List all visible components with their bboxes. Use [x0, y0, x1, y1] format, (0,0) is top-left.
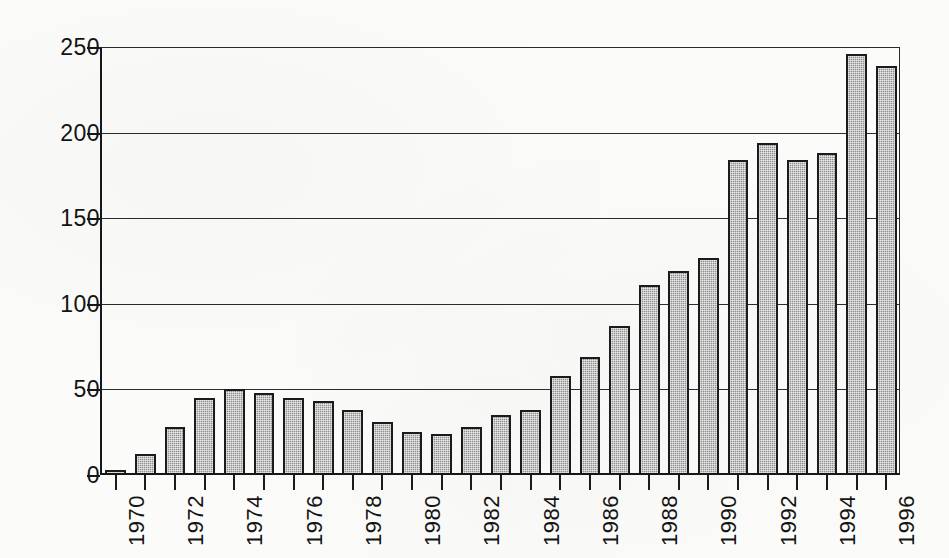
x-tick-mark-1976: [293, 475, 295, 490]
x-tick-mark-1983: [500, 475, 502, 490]
x-tick-label-1976: 1976: [302, 495, 328, 546]
y-tick-mark-200: [87, 133, 100, 135]
x-tick-label-1990: 1990: [716, 495, 742, 546]
x-tick-mark-1980: [411, 475, 413, 490]
x-tick-mark-1988: [648, 475, 650, 490]
x-axis: 1970197219741976197819801982198419861988…: [0, 475, 949, 558]
x-tick-label-1986: 1986: [598, 495, 624, 546]
x-tick-mark-1977: [322, 475, 324, 490]
plot-area: [100, 47, 900, 475]
x-tick-mark-1970: [115, 475, 117, 490]
x-tick-mark-1971: [144, 475, 146, 490]
plot-frame: [100, 47, 900, 475]
x-tick-label-1994: 1994: [835, 495, 861, 546]
x-tick-mark-1972: [174, 475, 176, 490]
y-tick-mark-150: [87, 218, 100, 220]
x-tick-mark-1973: [204, 475, 206, 490]
x-tick-label-1984: 1984: [539, 495, 565, 546]
x-tick-mark-1995: [856, 475, 858, 490]
x-tick-mark-1990: [707, 475, 709, 490]
y-tick-mark-100: [87, 304, 100, 306]
x-tick-label-1970: 1970: [124, 495, 150, 546]
x-tick-mark-1996: [885, 475, 887, 490]
x-tick-mark-1975: [263, 475, 265, 490]
x-tick-label-1982: 1982: [479, 495, 505, 546]
x-tick-mark-1974: [233, 475, 235, 490]
x-tick-mark-1982: [470, 475, 472, 490]
x-tick-label-1978: 1978: [361, 495, 387, 546]
x-tick-label-1974: 1974: [242, 495, 268, 546]
x-tick-label-1980: 1980: [420, 495, 446, 546]
bar-chart-figure: 050100150200250 197019721974197619781980…: [0, 0, 949, 558]
y-tick-mark-250: [87, 47, 100, 49]
x-tick-mark-1992: [767, 475, 769, 490]
x-tick-mark-1991: [737, 475, 739, 490]
x-tick-label-1992: 1992: [776, 495, 802, 546]
x-tick-mark-1986: [589, 475, 591, 490]
y-tick-mark-50: [87, 389, 100, 391]
x-tick-mark-1981: [441, 475, 443, 490]
x-tick-label-1972: 1972: [183, 495, 209, 546]
x-tick-mark-1994: [826, 475, 828, 490]
x-tick-label-1996: 1996: [894, 495, 920, 546]
x-tick-mark-1993: [796, 475, 798, 490]
x-tick-mark-1979: [381, 475, 383, 490]
x-tick-label-1988: 1988: [657, 495, 683, 546]
x-tick-mark-1987: [619, 475, 621, 490]
x-tick-mark-1985: [559, 475, 561, 490]
x-tick-mark-1978: [352, 475, 354, 490]
x-tick-mark-1989: [678, 475, 680, 490]
x-tick-mark-1984: [530, 475, 532, 490]
